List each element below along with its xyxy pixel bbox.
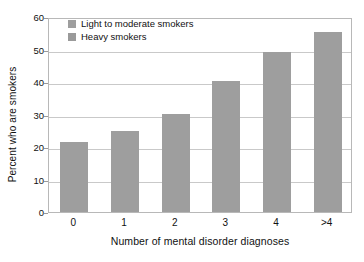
bar-segment-light-moderate-smokers bbox=[162, 114, 190, 212]
plot-area bbox=[48, 18, 352, 213]
tick-mark bbox=[44, 213, 48, 214]
y-axis-tick-labels: 0102030405060 bbox=[20, 18, 44, 213]
bar-segment-light-moderate-smokers bbox=[263, 52, 291, 212]
x-axis-tick-label: 4 bbox=[273, 216, 279, 230]
x-axis-tick-label: 0 bbox=[71, 216, 77, 230]
bar-segment-light-moderate-smokers bbox=[111, 131, 139, 212]
legend-swatch-icon bbox=[68, 20, 76, 28]
x-axis-title: Number of mental disorder diagnoses bbox=[48, 234, 352, 248]
x-axis-tick-labels: 01234>4 bbox=[48, 216, 352, 230]
bar bbox=[111, 131, 139, 212]
y-axis-tick-label: 20 bbox=[20, 143, 44, 153]
x-axis-tick-label: 1 bbox=[121, 216, 127, 230]
bar bbox=[212, 81, 240, 212]
y-axis-tick-label: 10 bbox=[20, 176, 44, 186]
x-axis-tick-label: >4 bbox=[321, 216, 332, 230]
legend-entry: Light to moderate smokers bbox=[68, 19, 193, 29]
bar bbox=[263, 52, 291, 212]
bar-segment-light-moderate-smokers bbox=[60, 142, 88, 212]
bar-segment-light-moderate-smokers bbox=[314, 32, 342, 212]
bar-segment-light-moderate-smokers bbox=[212, 81, 240, 212]
bar bbox=[162, 114, 190, 212]
y-axis-title: Percent who are smokers bbox=[6, 18, 20, 231]
bars-group bbox=[49, 19, 351, 212]
bar-chart: Percent who are smokers 0102030405060 01… bbox=[0, 0, 364, 262]
y-axis-tick-label: 60 bbox=[20, 13, 44, 23]
y-axis-tick-label: 40 bbox=[20, 78, 44, 88]
x-axis-tick-label: 3 bbox=[223, 216, 229, 230]
bar bbox=[60, 142, 88, 212]
chart-legend: Light to moderate smokersHeavy smokers bbox=[68, 19, 193, 42]
legend-entry: Heavy smokers bbox=[68, 32, 193, 42]
x-axis-tick-label: 2 bbox=[172, 216, 178, 230]
legend-swatch-icon bbox=[68, 33, 76, 41]
y-axis-tick-label: 30 bbox=[20, 111, 44, 121]
legend-label: Light to moderate smokers bbox=[81, 19, 193, 29]
y-axis-tick-label: 50 bbox=[20, 46, 44, 56]
bar bbox=[314, 32, 342, 212]
legend-label: Heavy smokers bbox=[81, 32, 146, 42]
y-axis-tick-label: 0 bbox=[20, 208, 44, 218]
